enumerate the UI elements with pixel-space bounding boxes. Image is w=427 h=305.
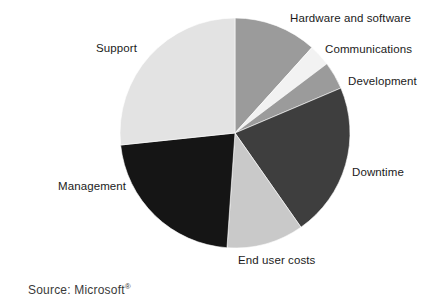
pie-label-management: Management: [58, 180, 126, 193]
source-note: Source: Microsoft®: [28, 283, 131, 297]
pie-label-communications: Communications: [325, 43, 412, 56]
pie-label-downtime: Downtime: [352, 166, 404, 179]
pie-label-support: Support: [96, 42, 137, 55]
pie-label-hardware-and-software: Hardware and software: [290, 12, 411, 25]
pie-slice-support: [120, 18, 235, 145]
pie-label-end-user-costs: End user costs: [238, 254, 315, 267]
pie-chart-figure: Hardware and software Communications Dev…: [0, 0, 427, 305]
pie-slice-group: [120, 18, 350, 248]
registered-trademark-icon: ®: [125, 282, 131, 291]
pie-label-development: Development: [348, 75, 417, 88]
source-note-text: Source: Microsoft: [28, 283, 125, 297]
pie-slice-management: [121, 133, 235, 248]
